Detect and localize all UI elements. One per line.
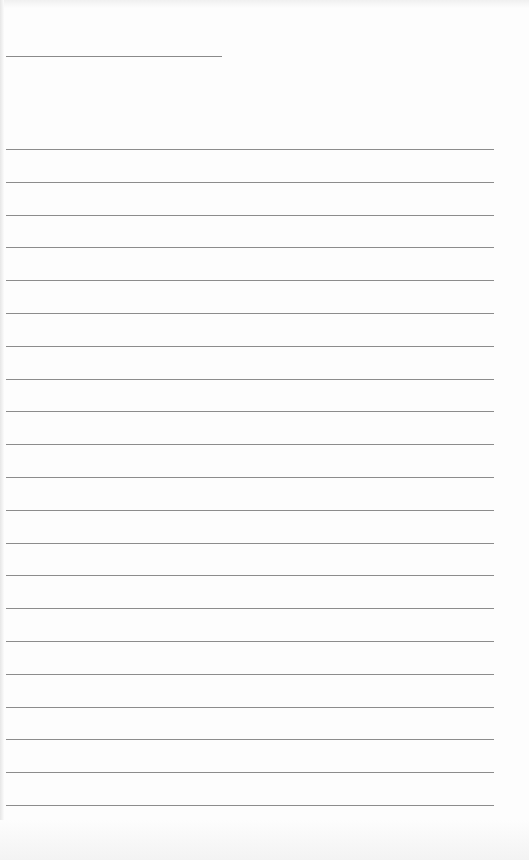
ruled-line xyxy=(6,772,494,773)
ruled-line xyxy=(6,411,494,412)
ruled-line xyxy=(6,182,494,183)
ruled-line xyxy=(6,247,494,248)
ruled-line xyxy=(6,149,494,150)
ruled-line xyxy=(6,215,494,216)
ruled-line xyxy=(6,280,494,281)
header-write-line xyxy=(6,56,222,57)
ruled-line xyxy=(6,379,494,380)
ruled-line xyxy=(6,477,494,478)
ruled-line xyxy=(6,707,494,708)
ruled-line xyxy=(6,739,494,740)
scan-top-shadow xyxy=(0,0,529,8)
ruled-line xyxy=(6,444,494,445)
ruled-line xyxy=(6,805,494,806)
scan-left-edge xyxy=(0,0,4,860)
ruled-line xyxy=(6,543,494,544)
ruled-line xyxy=(6,575,494,576)
ruled-line xyxy=(6,608,494,609)
ruled-line xyxy=(6,313,494,314)
ruled-line xyxy=(6,346,494,347)
ruled-line xyxy=(6,510,494,511)
scan-bottom-shadow xyxy=(0,820,529,860)
ruled-line xyxy=(6,674,494,675)
ruled-line xyxy=(6,641,494,642)
